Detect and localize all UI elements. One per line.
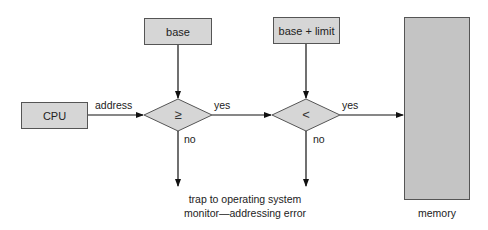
compare-lt-symbol: < xyxy=(296,107,316,122)
base-limit-label: base + limit xyxy=(279,25,335,37)
memory-label: memory xyxy=(404,207,470,219)
edge-label-yes-2: yes xyxy=(342,99,358,111)
base-limit-box: base + limit xyxy=(273,17,340,44)
base-register-label: base xyxy=(166,26,190,38)
trap-label-line-1: trap to operating system xyxy=(140,192,350,206)
edge-label-no-1: no xyxy=(184,133,196,145)
memory-box xyxy=(404,17,470,200)
edge-label-yes-1: yes xyxy=(214,99,230,111)
cpu-box: CPU xyxy=(21,102,88,129)
compare-ge-symbol: ≥ xyxy=(168,107,188,122)
trap-label-line-2: monitor—addressing error xyxy=(140,206,350,220)
trap-label: trap to operating system monitor—address… xyxy=(140,192,350,220)
edge-label-address: address xyxy=(95,99,132,111)
cpu-label: CPU xyxy=(43,110,66,122)
edge-label-no-2: no xyxy=(313,133,325,145)
base-register-box: base xyxy=(144,18,212,45)
